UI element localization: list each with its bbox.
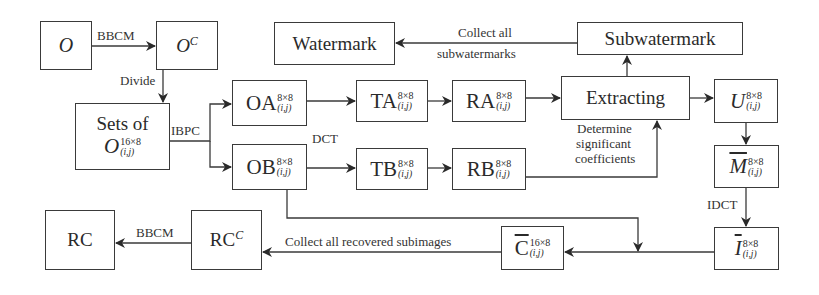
- label-collect-recovered: Collect all recovered subimages: [285, 235, 451, 249]
- node-extracting: Extracting: [561, 76, 690, 120]
- node-rcc: RCC: [191, 210, 262, 270]
- label-significant: significant: [576, 137, 631, 151]
- node-c: C16×8(i,j): [501, 226, 564, 270]
- node-ta: TA8×8(i,j): [356, 80, 428, 122]
- node-ob: OB8×8(i,j): [232, 144, 307, 190]
- node-o-label: O: [59, 34, 73, 57]
- label-coefficients: coefficients: [575, 152, 635, 166]
- node-rb: RB8×8(i,j): [452, 148, 526, 190]
- label-idct: IDCT: [707, 198, 737, 212]
- node-sets-symbol: O 16×8(i,j): [104, 134, 141, 159]
- label-bbcm-bottom: BBCM: [136, 226, 174, 240]
- node-o: O: [40, 21, 92, 70]
- node-tb: TB8×8(i,j): [356, 148, 428, 190]
- label-determine: Determine: [577, 122, 632, 136]
- node-watermark: Watermark: [274, 22, 395, 65]
- node-i: I8×8(i,j): [714, 227, 779, 270]
- node-sets: Sets of O 16×8(i,j): [75, 103, 170, 170]
- label-subwatermarks: subwatermarks: [437, 47, 516, 61]
- label-divide: Divide: [120, 74, 155, 88]
- label-dct: DCT: [312, 132, 338, 146]
- node-oc-label: OC: [176, 35, 198, 57]
- label-collect-all: Collect all: [458, 26, 512, 40]
- label-bbcm-top: BBCM: [97, 29, 135, 43]
- node-u: U8×8(i,j): [714, 79, 778, 123]
- node-subwatermark: Subwatermark: [577, 22, 743, 55]
- label-ibpc: IBPC: [171, 124, 200, 138]
- node-sets-line1: Sets of: [96, 114, 148, 134]
- node-rc: RC: [45, 210, 115, 270]
- node-ra: RA8×8(i,j): [452, 80, 526, 122]
- arrow-sets-to-ob: [210, 141, 231, 167]
- node-oc: OC: [156, 21, 218, 70]
- node-oa: OA8×8(i,j): [232, 80, 307, 126]
- node-m: M8×8(i,j): [714, 145, 779, 188]
